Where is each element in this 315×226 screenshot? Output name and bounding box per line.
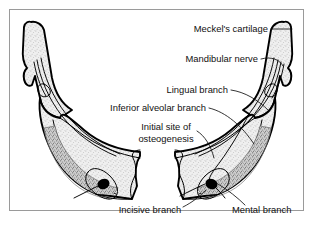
incisive-branch-text: Incisive branch [119, 204, 182, 215]
mandibular-nerve-text: Mandibular nerve [186, 53, 258, 64]
mental-branch-text: Mental branch [232, 204, 291, 215]
lingual-branch-text: Lingual branch [166, 84, 228, 95]
meckels-cartilage-text: Meckel's cartilage [194, 23, 268, 34]
right-ramus [243, 22, 292, 118]
inferior-alveolar-branch-text: Inferior alveolar branch [110, 102, 206, 113]
figure-root: Meckel's cartilage Mandibular nerve Ling… [0, 0, 315, 226]
left-ramus [23, 22, 72, 118]
initial-site-text-line1: Initial site of [141, 121, 191, 132]
mandible-diagram: Meckel's cartilage Mandibular nerve Ling… [0, 0, 315, 226]
initial-site-text-line2: osteogenesis [138, 133, 194, 144]
